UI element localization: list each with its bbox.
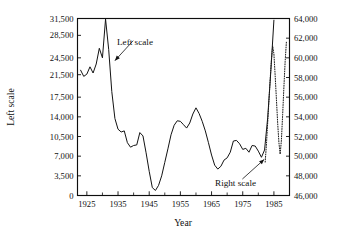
left-axis-tick-label: 14,000 <box>50 112 74 122</box>
annotation-left-scale-label: Left scale <box>117 37 153 47</box>
y-axis-title: Left scale <box>5 88 16 126</box>
dual-axis-line-chart: 03,5007,00010,50014,00017,50021,50024,50… <box>0 0 346 241</box>
left-axis-tick-label: 3,500 <box>54 171 73 181</box>
plot-frame <box>78 19 290 196</box>
x-axis-ticks <box>87 191 274 195</box>
x-axis-tick-label: 1955 <box>172 199 189 209</box>
annotation-right-scale-label: Right scale <box>215 178 256 188</box>
right-axis-tick-label: 62,000 <box>294 33 318 43</box>
right-axis-tick-label: 46,000 <box>294 191 318 201</box>
right-axis-tick-label: 58,000 <box>294 73 318 83</box>
right-axis-tick-labels: 46,00048,00050,00052,00054,00056,00058,0… <box>294 14 318 201</box>
left-axis-tick-label: 28,500 <box>50 30 74 40</box>
right-axis-tick-label: 64,000 <box>294 14 318 24</box>
x-axis-tick-label: 1985 <box>265 199 282 209</box>
left-axis-tick-label: 7,000 <box>54 151 73 161</box>
x-axis-tick-labels: 1925193519451955196519751985 <box>78 199 282 209</box>
left-axis-tick-label: 17,500 <box>50 92 74 102</box>
left-axis-tick-label: 31,500 <box>50 14 74 24</box>
series-left-scale-line <box>81 19 274 190</box>
annotation-left-scale: Left scale <box>115 37 153 61</box>
x-axis-tick-label: 1935 <box>109 199 126 209</box>
chart-container: 03,5007,00010,50014,00017,50021,50024,50… <box>0 0 346 241</box>
right-axis-tick-label: 56,000 <box>294 92 318 102</box>
x-axis-tick-label: 1965 <box>203 199 220 209</box>
left-axis-tick-label: 10,500 <box>50 132 74 142</box>
right-axis-tick-label: 52,000 <box>294 132 318 142</box>
x-axis-title: Year <box>174 217 192 228</box>
left-axis-tick-label: 24,500 <box>50 53 74 63</box>
left-axis-tick-labels: 03,5007,00010,50014,00017,50021,50024,50… <box>50 14 74 201</box>
x-axis-tick-label: 1925 <box>78 199 95 209</box>
right-axis-tick-label: 48,000 <box>294 171 318 181</box>
left-axis-tick-label: 0 <box>69 191 73 201</box>
x-axis-tick-label: 1945 <box>141 199 158 209</box>
right-axis-tick-label: 54,000 <box>294 112 318 122</box>
right-axis-tick-label: 50,000 <box>294 151 318 161</box>
right-axis-tick-label: 60,000 <box>294 53 318 63</box>
x-axis-tick-label: 1975 <box>234 199 251 209</box>
left-axis-tick-label: 21,500 <box>50 70 74 80</box>
